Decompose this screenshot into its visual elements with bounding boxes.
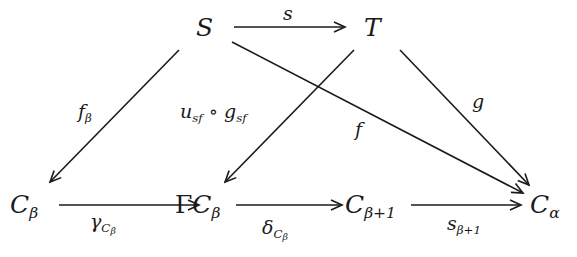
- node-C-beta-main: C: [10, 190, 29, 219]
- node-T: T: [364, 15, 381, 40]
- label-f-beta-sub: β: [85, 111, 92, 125]
- label-f-beta-main: f: [78, 100, 85, 122]
- arrow-f: [232, 42, 523, 193]
- node-C-beta-plus-1-main: C: [345, 190, 364, 219]
- node-C-beta-plus-1-sub: β+1: [364, 204, 396, 222]
- node-C-alpha-main: C: [530, 190, 549, 219]
- node-Gamma-C-sub: β: [212, 204, 221, 222]
- node-T-text: T: [364, 13, 381, 42]
- label-u-circ-g: usf ∘ gsf: [180, 102, 247, 125]
- label-u-sub: sf: [192, 111, 202, 125]
- label-s: s: [283, 4, 293, 23]
- label-f-text: f: [355, 118, 362, 140]
- node-C-beta-sub: β: [29, 204, 38, 222]
- node-Gamma-prefix: Γ: [175, 190, 192, 219]
- label-s-beta-plus-1: sβ+1: [447, 214, 481, 237]
- label-s-beta-plus-1-sub: β+1: [457, 223, 481, 237]
- label-f-beta: fβ: [78, 102, 92, 125]
- label-compose-op: ∘: [209, 100, 218, 122]
- label-delta: δCβ: [262, 218, 288, 242]
- node-C-beta-plus-1: Cβ+1: [345, 192, 396, 222]
- arrows-layer: [0, 0, 577, 257]
- label-delta-sub-sub: β: [282, 231, 287, 242]
- label-s-text: s: [283, 2, 293, 24]
- label-f: f: [355, 120, 362, 139]
- node-Gamma-C-beta: ΓCβ: [175, 192, 220, 222]
- label-g: g: [472, 92, 484, 111]
- label-gamma-main: γ: [90, 210, 101, 232]
- label-delta-main: δ: [262, 216, 273, 238]
- label-g-inner: g: [224, 100, 236, 122]
- arrow-g: [400, 50, 529, 185]
- label-g-inner-sub: sf: [236, 111, 246, 125]
- label-u: u: [180, 100, 192, 122]
- node-S: S: [196, 15, 213, 40]
- node-C-beta: Cβ: [10, 192, 38, 222]
- label-s-beta-plus-1-main: s: [447, 212, 457, 234]
- label-gamma-sub-sub: β: [110, 225, 115, 236]
- arrow-f-beta: [50, 50, 179, 182]
- node-C-alpha-sub: α: [549, 204, 559, 222]
- commutative-diagram: S T Cβ ΓCβ Cβ+1 Cα s fβ usf ∘ gsf f g γC…: [0, 0, 577, 257]
- node-C-alpha: Cα: [530, 192, 560, 222]
- label-g-text: g: [472, 90, 484, 112]
- node-S-text: S: [196, 13, 213, 42]
- label-gamma: γCβ: [90, 212, 116, 236]
- node-Gamma-C-main: C: [192, 190, 211, 219]
